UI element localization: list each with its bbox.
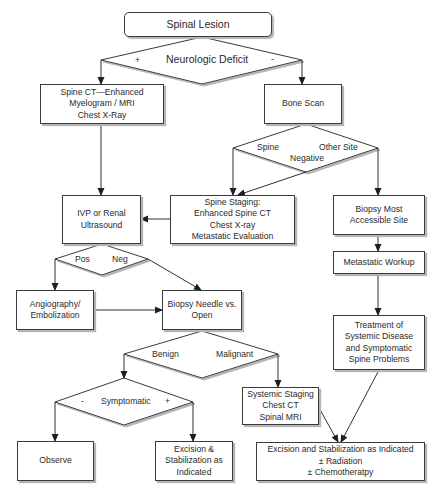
node-label: Spinal Lesion: [166, 19, 229, 31]
decision-label-plus: +: [135, 55, 140, 65]
node-label: Excision and Stabilization as Indicated …: [267, 444, 413, 479]
decision-label-spine: Spine: [257, 142, 279, 152]
node-label: Biopsy Needle vs. Open: [168, 299, 237, 322]
node-label: Angiography/ Embolization: [30, 299, 81, 322]
node-ivp-renal-ultrasound: IVP or Renal Ultrasound: [62, 195, 141, 244]
node-spine-staging: Spine Staging: Enhanced Spine CT Chest X…: [170, 195, 295, 244]
decision-label-malignant: Malignant: [216, 349, 253, 359]
decision-label-symptomatic-text: Symptomatic: [101, 396, 151, 406]
node-label: Bone Scan: [282, 98, 324, 110]
decision-label-minus-symptomatic: -: [81, 396, 84, 406]
node-excision-stabilization-small: Excision & Stabilization as Indicated: [155, 441, 233, 481]
node-spine-ct: Spine CT—Enhanced Myelogram / MRI Chest …: [40, 84, 164, 124]
node-label: Spine CT—Enhanced Myelogram / MRI Chest …: [60, 87, 143, 122]
decision-label-minus: -: [271, 54, 274, 64]
node-observe: Observe: [17, 441, 94, 481]
node-label: IVP or Renal Ultrasound: [77, 208, 126, 231]
decision-label-plus-symptomatic: +: [165, 396, 170, 406]
decision-label-other-site: Other Site: [319, 142, 358, 152]
decision-label-benign: Benign: [152, 349, 179, 359]
node-angiography: Angiography/ Embolization: [16, 290, 94, 330]
decision-label-neurologic-deficit: Neurologic Deficit: [166, 54, 248, 64]
flowchart-canvas: Spinal Lesion Spine CT—Enhanced Myelogra…: [0, 0, 442, 495]
node-label: Metastatic Workup: [343, 257, 414, 269]
node-label: Observe: [39, 455, 71, 467]
node-treatment-systemic: Treatment of Systemic Disease and Sympto…: [333, 315, 425, 370]
decision-pos-neg-diamond: [55, 244, 148, 275]
decision-benign-malignant-diamond: [124, 331, 278, 378]
node-spinal-lesion: Spinal Lesion: [124, 12, 272, 37]
node-label: Biopsy Most Accessible Site: [350, 204, 408, 227]
node-metastatic-workup: Metastatic Workup: [333, 251, 425, 274]
node-label: Treatment of Systemic Disease and Sympto…: [345, 320, 413, 366]
node-biopsy-needle: Biopsy Needle vs. Open: [162, 290, 242, 330]
node-bone-scan: Bone Scan: [264, 84, 342, 124]
node-label: Excision & Stabilization as Indicated: [165, 444, 223, 479]
decision-label-pos: Pos: [75, 254, 90, 264]
decision-label-negative: Negative: [290, 153, 324, 163]
node-label: Spine Staging: Enhanced Spine CT Chest X…: [192, 197, 274, 243]
node-biopsy-most-accessible: Biopsy Most Accessible Site: [333, 195, 425, 235]
connectors-layer: [0, 0, 442, 495]
node-excision-stabilization-large: Excision and Stabilization as Indicated …: [256, 442, 425, 481]
node-systemic-staging: Systemic Staging Chest CT Spinal MRI: [242, 387, 319, 425]
decision-label-neg: Neg: [112, 254, 128, 264]
node-label: Systemic Staging Chest CT Spinal MRI: [247, 389, 313, 424]
